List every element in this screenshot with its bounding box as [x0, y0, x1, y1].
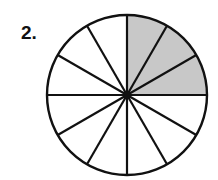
fraction-circle: [0, 0, 218, 180]
center-dot: [123, 91, 131, 99]
